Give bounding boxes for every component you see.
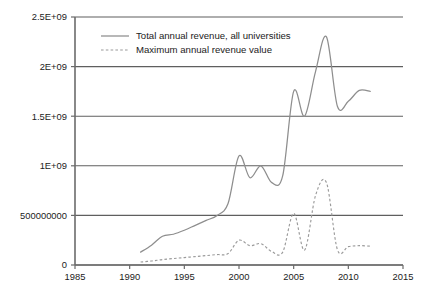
x-axis-group: 1985199019952000200520102015 bbox=[65, 265, 414, 282]
x-axis-tick-label: 2010 bbox=[338, 271, 359, 282]
y-axis-tick-label: 500000000 bbox=[20, 210, 67, 221]
legend-entry-label: Maximum annual revenue value bbox=[136, 44, 272, 55]
x-axis-tick-label: 2000 bbox=[229, 271, 250, 282]
chart-container: 05000000001E+091.5E+092E+092.5E+09 19851… bbox=[0, 0, 428, 301]
y-axis-tick-label: 0 bbox=[62, 259, 67, 270]
y-axis-tick-label: 2E+09 bbox=[40, 61, 67, 72]
chart-legend: Total annual revenue, all universitiesMa… bbox=[101, 30, 291, 55]
x-axis-tick-label: 1990 bbox=[119, 271, 140, 282]
x-axis-tick-label: 1985 bbox=[65, 271, 86, 282]
x-axis-tick-label: 2005 bbox=[283, 271, 304, 282]
y-axis-tick-label: 2.5E+09 bbox=[32, 11, 67, 22]
series-line-total-annual-revenue bbox=[141, 36, 371, 252]
y-axis-group: 05000000001E+091.5E+092E+092.5E+09 bbox=[20, 11, 75, 270]
revenue-line-chart: 05000000001E+091.5E+092E+092.5E+09 19851… bbox=[0, 0, 428, 301]
y-axis-tick-label: 1.5E+09 bbox=[32, 111, 67, 122]
legend-entry-label: Total annual revenue, all universities bbox=[136, 30, 291, 41]
x-axis-tick-label: 1995 bbox=[174, 271, 195, 282]
series-group bbox=[141, 36, 371, 262]
x-axis-tick-label: 2015 bbox=[393, 271, 414, 282]
series-line-maximum-annual-revenue bbox=[141, 179, 371, 262]
y-axis-tick-label: 1E+09 bbox=[40, 160, 67, 171]
